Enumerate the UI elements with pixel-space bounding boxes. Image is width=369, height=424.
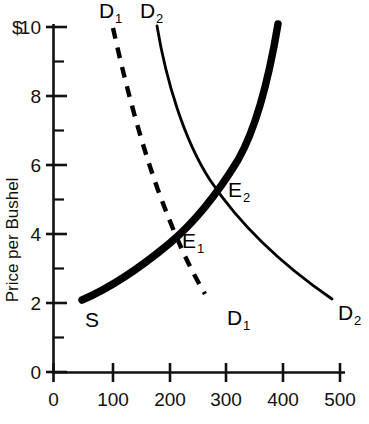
x-tick-label-400: 400	[267, 389, 299, 410]
curve-label-D1-bottom: D	[227, 306, 242, 329]
x-tick-label-100: 100	[97, 389, 129, 410]
curve-label-D2-bottom-sub: 2	[354, 313, 361, 328]
curves	[82, 24, 332, 300]
demand-curve-D2	[157, 26, 332, 299]
x-tick-label-500: 500	[324, 389, 356, 410]
supply-demand-chart: 10 $ 8 6 4 2 0 0 100 200 300 400 500 Pri…	[0, 0, 369, 424]
y-tick-label-10: 10	[20, 17, 41, 38]
y-tick-label-2: 2	[30, 293, 41, 314]
annotation-E1: E	[182, 229, 196, 252]
y-axis-title: Price per Bushel	[3, 178, 22, 303]
y-tick-label-6: 6	[30, 155, 41, 176]
curve-label-D1-top-sub: 1	[115, 11, 122, 26]
annotation-E2: E	[228, 178, 242, 201]
y-tick-label-4: 4	[30, 224, 41, 245]
annotation-E1-sub: 1	[197, 241, 204, 256]
curve-label-D1-top: D	[99, 0, 114, 22]
curve-label-D2-bottom: D	[338, 301, 353, 324]
curve-label-D2-top-sub: 2	[156, 11, 163, 26]
x-tick-label-300: 300	[210, 389, 242, 410]
y-tick-label-0: 0	[30, 362, 41, 383]
x-tick-label-0: 0	[48, 389, 59, 410]
curve-label-D1-bottom-sub: 1	[243, 318, 250, 333]
curve-labels: D 1 D 2 S D 1 D 2	[85, 0, 361, 333]
y-axis-currency-symbol: $	[12, 17, 23, 38]
supply-curve-S	[82, 24, 278, 300]
curve-label-D2-top: D	[140, 0, 155, 22]
chart-canvas: 10 $ 8 6 4 2 0 0 100 200 300 400 500 Pri…	[0, 0, 369, 424]
x-tick-label-200: 200	[154, 389, 186, 410]
y-tick-label-8: 8	[30, 86, 41, 107]
curve-label-S: S	[85, 308, 99, 331]
annotation-E2-sub: 2	[243, 190, 250, 205]
